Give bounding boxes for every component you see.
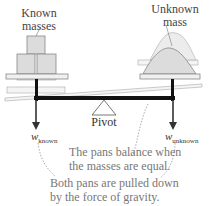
beam [34,96,175,100]
known-masses-label: Knownmasses [14,7,64,33]
pivot-triangle [92,100,116,115]
w-known-label: wknown [31,130,57,145]
mass-block-top [27,36,45,54]
pan-right [140,74,200,79]
pan-left [6,74,68,79]
gravity-note: Both pans are pulled downby the force of… [50,176,179,204]
mass-block-left [17,54,35,74]
w-unknown-label: wunknown [165,130,198,145]
w-known-arrow [32,122,40,130]
w-unknown-arrow [169,122,177,130]
mass-block-right [37,54,56,74]
pivot-label: Pivot [84,116,124,129]
balance-note: The pans balance whenthe masses are equa… [69,145,181,173]
unknown-mass-label: Unknownmass [145,3,205,29]
